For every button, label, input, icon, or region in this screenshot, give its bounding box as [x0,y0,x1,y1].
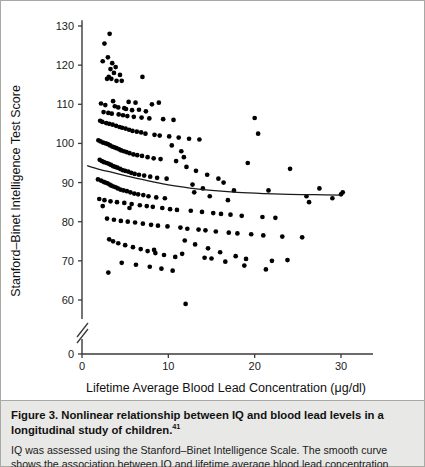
data-point [109,76,114,81]
y-tick-label: 60 [62,294,74,306]
data-point [145,155,150,160]
data-point [111,99,116,104]
data-point [235,231,240,236]
data-point [148,174,153,179]
data-point [266,188,271,193]
data-point [330,196,335,201]
data-point [152,248,157,253]
data-point [216,176,221,181]
data-point [158,157,163,162]
data-point [111,239,116,244]
data-point [99,101,104,106]
data-point [109,111,114,116]
data-point [152,132,157,137]
data-point [179,149,184,154]
data-point [175,208,180,213]
data-point [102,198,107,203]
data-point [165,224,170,229]
data-point [196,227,201,232]
data-point [188,208,193,213]
data-point [285,258,290,263]
data-point [164,176,169,181]
data-point [125,219,130,224]
data-point [115,200,120,205]
data-point [176,135,181,140]
data-point [108,199,113,204]
data-point [219,212,224,217]
data-point [141,193,146,198]
data-point [125,114,130,119]
data-point [218,250,223,255]
data-point [280,234,285,239]
data-point [159,266,164,271]
data-point [182,155,187,160]
data-point [288,167,293,172]
data-point [140,75,145,80]
data-point [122,201,127,206]
data-point [105,216,110,221]
data-point [194,168,199,173]
y-axis-title: Stanford–Binet Intelligence Test Score [9,85,23,297]
data-point [131,152,136,157]
x-axis-title: Lifetime Average Blood Lead Concentratio… [86,381,366,395]
data-point [242,263,247,268]
y-tick-label: 110 [56,98,74,110]
data-point [264,267,269,272]
data-point [119,260,124,265]
data-point [211,211,216,216]
data-point [197,137,202,142]
data-point [187,136,192,141]
data-point [130,129,135,134]
data-point [139,115,144,120]
data-point [108,67,113,72]
figure-caption-title-text: Figure 3. Nonlinear relationship between… [11,409,384,436]
data-point [180,251,185,256]
data-point [127,206,132,211]
data-point [170,268,175,273]
data-point [226,230,231,235]
data-point [209,256,214,261]
data-point [249,232,254,237]
data-point [100,204,105,209]
y-tick-label: 100 [56,137,74,149]
data-point [130,108,135,113]
data-point [156,100,161,105]
data-point [307,200,312,205]
data-point [147,116,152,121]
data-point [168,207,173,212]
x-axis-ticks: 0102030 [79,354,347,372]
data-point [300,235,305,240]
data-point [143,131,148,136]
data-point [137,172,142,177]
data-point [239,213,244,218]
x-tick-label: 20 [249,360,261,372]
data-point [200,210,205,215]
data-point [140,154,145,159]
data-point [106,55,111,60]
scatter-plot: 607080901001101201300 0102030 Stanford–B… [1,1,425,401]
data-point [144,109,149,114]
data-point [162,253,167,258]
y-tick-label: 80 [62,216,74,228]
data-point [112,71,117,76]
data-point [137,107,142,112]
y-tick-label: 120 [56,59,74,71]
axis-break-slash-1 [77,323,88,337]
x-tick-label: 30 [335,360,347,372]
data-point [135,153,140,158]
data-point [245,161,250,166]
data-point [184,165,189,170]
data-point [193,242,198,247]
y-tick-label: 70 [62,255,74,267]
data-point [154,195,159,200]
data-point [150,102,155,107]
data-point [124,107,129,112]
data-point [260,215,265,220]
data-point [110,61,115,66]
data-point [169,143,174,148]
data-point [134,129,139,134]
data-point [190,182,195,187]
data-point [261,233,266,238]
data-point [155,176,160,181]
data-point [116,105,121,110]
